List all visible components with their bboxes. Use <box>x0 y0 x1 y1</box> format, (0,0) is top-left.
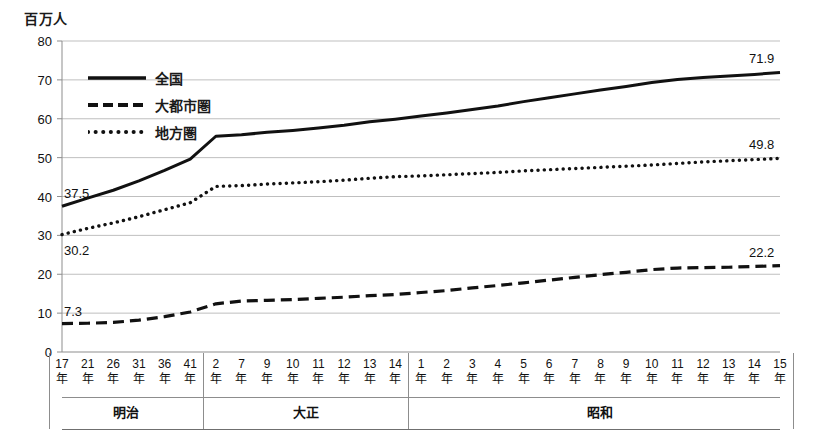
y-tick-label: 30 <box>12 229 52 242</box>
legend-item-solid: 全国 <box>88 64 318 91</box>
figure-caption <box>10 432 430 442</box>
era-label: 大正 <box>203 402 408 421</box>
x-tick-year-number: 9 <box>613 357 639 372</box>
x-tick-year-kanji: 年 <box>100 372 126 387</box>
x-tick-year-number: 41 <box>177 357 203 372</box>
x-tick-label: 10年 <box>639 357 665 387</box>
x-tick-year-number: 9 <box>254 357 280 372</box>
era-divider <box>203 353 204 397</box>
x-tick-label: 15年 <box>767 357 793 387</box>
x-tick-label: 7年 <box>229 357 255 387</box>
x-tick-year-kanji: 年 <box>767 372 793 387</box>
value-label: 71.9 <box>749 52 774 65</box>
y-tick-label: 80 <box>12 35 52 48</box>
legend-key-dotted <box>88 126 146 138</box>
x-tick-year-kanji: 年 <box>254 372 280 387</box>
x-tick-label: 21年 <box>75 357 101 387</box>
x-tick-label: 10年 <box>280 357 306 387</box>
value-label: 7.3 <box>64 305 82 318</box>
x-tick-year-kanji: 年 <box>229 372 255 387</box>
x-tick-year-number: 13 <box>357 357 383 372</box>
x-tick-label: 8年 <box>588 357 614 387</box>
era-divider <box>408 397 409 429</box>
x-tick-label: 14年 <box>383 357 409 387</box>
x-tick-year-number: 7 <box>229 357 255 372</box>
era-label: 昭和 <box>408 402 793 421</box>
x-tick-label: 9年 <box>613 357 639 387</box>
x-tick-year-kanji: 年 <box>357 372 383 387</box>
value-label: 49.8 <box>749 138 774 151</box>
chart-page: 百万人 80706050403020100 全国大都市圏地方圏 37.530.2… <box>0 0 817 444</box>
x-tick-label: 7年 <box>562 357 588 387</box>
x-tick-year-number: 12 <box>331 357 357 372</box>
x-tick-year-kanji: 年 <box>665 372 691 387</box>
x-tick-label: 2年 <box>203 357 229 387</box>
era-axis: 明治大正昭和 <box>62 397 780 430</box>
legend-item-dashed: 大都市圏 <box>88 91 318 118</box>
x-tick-year-kanji: 年 <box>331 372 357 387</box>
x-tick-year-kanji: 年 <box>511 372 537 387</box>
x-tick-label: 11年 <box>665 357 691 387</box>
legend-item-dotted: 地方圏 <box>88 118 318 145</box>
era-divider <box>49 397 50 429</box>
x-tick-year-number: 14 <box>383 357 409 372</box>
x-tick-label: 1年 <box>408 357 434 387</box>
x-tick-year-number: 14 <box>742 357 768 372</box>
legend-key-solid <box>88 72 146 84</box>
x-tick-year-number: 10 <box>639 357 665 372</box>
x-tick-year-number: 15 <box>767 357 793 372</box>
y-tick-label: 10 <box>12 307 52 320</box>
legend-label: 大都市圏 <box>155 95 211 115</box>
x-tick-year-number: 31 <box>126 357 152 372</box>
value-label: 22.2 <box>749 246 774 259</box>
x-tick-label: 41年 <box>177 357 203 387</box>
x-tick-label: 31年 <box>126 357 152 387</box>
x-tick-year-kanji: 年 <box>280 372 306 387</box>
x-tick-year-kanji: 年 <box>613 372 639 387</box>
x-tick-year-kanji: 年 <box>383 372 409 387</box>
era-divider <box>49 353 50 397</box>
x-tick-year-number: 36 <box>152 357 178 372</box>
x-tick-year-kanji: 年 <box>536 372 562 387</box>
x-tick-year-kanji: 年 <box>485 372 511 387</box>
x-tick-label: 26年 <box>100 357 126 387</box>
x-tick-year-kanji: 年 <box>434 372 460 387</box>
era-divider <box>203 397 204 429</box>
x-tick-year-kanji: 年 <box>177 372 203 387</box>
x-tick-year-kanji: 年 <box>49 372 75 387</box>
era-divider <box>793 353 794 397</box>
y-tick-label: 20 <box>12 268 52 281</box>
x-tick-year-number: 1 <box>408 357 434 372</box>
x-tick-label: 3年 <box>459 357 485 387</box>
x-tick-year-kanji: 年 <box>408 372 434 387</box>
x-tick-year-kanji: 年 <box>306 372 332 387</box>
x-tick-label: 12年 <box>331 357 357 387</box>
value-label: 30.2 <box>64 244 89 257</box>
x-tick-year-kanji: 年 <box>75 372 101 387</box>
x-tick-year-number: 17 <box>49 357 75 372</box>
x-tick-year-kanji: 年 <box>716 372 742 387</box>
x-tick-label: 9年 <box>254 357 280 387</box>
x-tick-label: 6年 <box>536 357 562 387</box>
y-axis-unit-label: 百万人 <box>24 8 68 28</box>
x-tick-label: 5年 <box>511 357 537 387</box>
y-tick-label: 40 <box>12 191 52 204</box>
x-tick-label: 2年 <box>434 357 460 387</box>
x-tick-year-number: 6 <box>536 357 562 372</box>
x-tick-label: 13年 <box>716 357 742 387</box>
x-tick-label: 13年 <box>357 357 383 387</box>
x-tick-label: 11年 <box>306 357 332 387</box>
x-tick-year-number: 2 <box>434 357 460 372</box>
y-tick-label: 60 <box>12 113 52 126</box>
legend-label: 地方圏 <box>155 122 197 142</box>
x-tick-year-kanji: 年 <box>742 372 768 387</box>
x-tick-year-number: 4 <box>485 357 511 372</box>
x-tick-year-number: 11 <box>665 357 691 372</box>
x-tick-year-kanji: 年 <box>639 372 665 387</box>
x-tick-label: 36年 <box>152 357 178 387</box>
x-tick-year-number: 3 <box>459 357 485 372</box>
x-tick-year-number: 13 <box>716 357 742 372</box>
x-tick-year-number: 5 <box>511 357 537 372</box>
legend-key-dashed <box>88 99 146 111</box>
x-tick-label: 14年 <box>742 357 768 387</box>
